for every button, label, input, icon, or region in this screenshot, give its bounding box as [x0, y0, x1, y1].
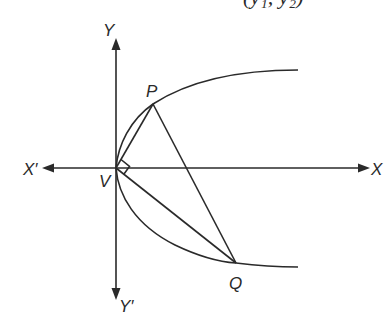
chord-vp [116, 104, 153, 168]
label-y-prime: Y′ [119, 297, 134, 316]
top-fragment-text: (y₁, y₂) [243, 0, 303, 9]
parabola-diagram: (y₁, y₂) Y Y′ X X′ V P Q [0, 0, 389, 329]
x-axis-left-arrow-icon [42, 164, 54, 173]
label-q: Q [229, 274, 242, 293]
right-angle-marker [121, 160, 130, 175]
label-v: V [99, 172, 112, 191]
x-axis-right-arrow-icon [358, 164, 370, 173]
chord-vq [116, 168, 236, 263]
label-y: Y [103, 21, 116, 40]
x-axis [42, 164, 370, 173]
label-x: X [370, 160, 383, 179]
label-x-prime: X′ [22, 160, 38, 179]
label-p: P [146, 82, 158, 101]
